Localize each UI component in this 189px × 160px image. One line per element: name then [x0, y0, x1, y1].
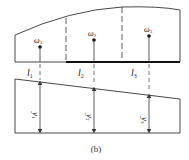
interval-labels: l1 l2 l3 — [27, 64, 149, 91]
interval-label-3: l3 — [131, 67, 137, 79]
load-curve — [15, 7, 180, 35]
influence-area: y1 y2 y3 — [15, 79, 180, 133]
omega-label-2: ω2 — [88, 29, 97, 38]
load-area: ω1 ω2 ω3 — [15, 7, 180, 62]
interval-label-2: l2 — [78, 67, 84, 79]
omega-label-1: ω1 — [34, 36, 43, 45]
figure-caption: (b) — [91, 144, 102, 154]
ordinate-label-3: y3 — [140, 116, 150, 124]
omega-label-3: ω3 — [144, 25, 153, 34]
ordinate-label-1: y1 — [31, 111, 41, 119]
ordinate-label-2: y2 — [85, 113, 95, 121]
influence-line-diagram: ω1 ω2 ω3 l1 l2 l3 y1 y2 y3 (b) — [0, 0, 189, 160]
interval-label-1: l1 — [27, 67, 33, 79]
